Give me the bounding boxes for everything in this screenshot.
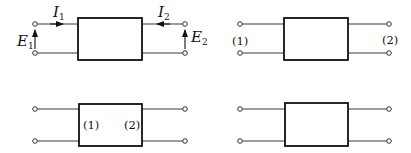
port-label-1: (1) — [232, 34, 248, 48]
network-box — [285, 103, 348, 146]
terminal-in-bottom — [33, 139, 38, 144]
port-label-1: (1) — [83, 118, 99, 132]
terminal-out-bottom — [183, 51, 188, 56]
two-port-diagram-1: I1 I2 E1 E2 — [16, 3, 208, 60]
terminal-out-bottom — [387, 51, 392, 56]
network-box — [78, 18, 142, 60]
port-label-2: (2) — [382, 33, 398, 47]
port-label-2: (2) — [124, 118, 140, 132]
terminal-out-top — [183, 22, 188, 27]
terminal-in-top — [238, 107, 243, 112]
label-i1: I1 — [52, 3, 65, 22]
label-i2: I2 — [157, 3, 170, 22]
label-e2: E2 — [190, 28, 208, 47]
two-port-diagram-2: (1) (2) — [232, 18, 398, 60]
terminal-in-top — [33, 107, 38, 112]
terminal-in-bottom — [238, 139, 243, 144]
terminal-in-bottom — [238, 51, 243, 56]
terminal-in-bottom — [33, 51, 38, 56]
terminal-out-top — [183, 107, 188, 112]
terminal-out-top — [387, 107, 392, 112]
terminal-out-bottom — [183, 139, 188, 144]
two-port-diagram-3: (1) (2) — [33, 104, 188, 146]
terminal-out-top — [387, 22, 392, 27]
label-e1: E1 — [16, 32, 34, 51]
network-box — [284, 18, 348, 60]
terminal-in-top — [238, 22, 243, 27]
two-port-diagram-4 — [238, 103, 392, 146]
terminal-out-bottom — [387, 139, 392, 144]
terminal-in-top — [33, 22, 38, 27]
